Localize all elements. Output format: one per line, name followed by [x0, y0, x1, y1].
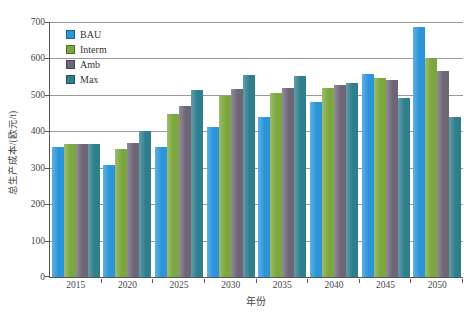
y-axis-tick-100 — [45, 241, 49, 242]
bar-group-2025 — [153, 90, 205, 277]
bar-interm-2045 — [374, 78, 386, 277]
bar-bau-2025 — [155, 147, 167, 277]
bar-bau-2050 — [413, 27, 425, 277]
legend-item-bau: BAU — [66, 27, 107, 42]
x-tick-label-2050: 2050 — [411, 280, 463, 290]
legend-label-max: Max — [80, 74, 98, 85]
bar-bau-2015 — [52, 147, 64, 277]
bar-interm-2040 — [322, 88, 334, 277]
y-axis-tick-700 — [45, 22, 49, 23]
gridline-700 — [50, 22, 463, 23]
y-tick-label-100: 100 — [19, 236, 45, 246]
bar-group-2015 — [50, 144, 102, 277]
y-tick-label-700: 700 — [19, 17, 45, 27]
legend-label-amb: Amb — [80, 59, 100, 70]
x-tick-label-2035: 2035 — [256, 280, 308, 290]
y-axis-tick-300 — [45, 168, 49, 169]
bar-group-2040 — [308, 83, 360, 277]
bar-max-2025 — [191, 90, 203, 277]
y-axis-tick-0 — [45, 276, 49, 277]
bar-amb-2025 — [179, 106, 191, 277]
bar-amb-2050 — [437, 71, 449, 277]
legend: BAUIntermAmbMax — [66, 27, 107, 87]
bar-amb-2035 — [282, 88, 294, 277]
bar-bau-2020 — [103, 165, 115, 277]
bar-max-2030 — [243, 75, 255, 277]
bar-max-2045 — [398, 98, 410, 277]
bar-max-2015 — [88, 144, 100, 277]
bar-amb-2040 — [334, 85, 346, 277]
bar-interm-2050 — [425, 58, 437, 277]
bar-bau-2040 — [310, 102, 322, 277]
y-tick-label-300: 300 — [19, 163, 45, 173]
gridline-600 — [50, 58, 463, 59]
bar-interm-2035 — [270, 93, 282, 277]
plot-area: BAUIntermAmbMax 010020030040050060070020… — [49, 22, 463, 278]
bar-interm-2025 — [167, 114, 179, 277]
x-tick-label-2045: 2045 — [360, 280, 412, 290]
bar-group-2035 — [257, 76, 309, 277]
legend-swatch-max — [66, 75, 75, 84]
bar-interm-2015 — [64, 144, 76, 277]
bar-bau-2035 — [258, 117, 270, 277]
bar-bau-2030 — [207, 127, 219, 277]
legend-item-max: Max — [66, 72, 107, 87]
bar-group-2020 — [102, 131, 154, 277]
y-tick-label-500: 500 — [19, 90, 45, 100]
legend-label-interm: Interm — [80, 44, 107, 55]
bar-interm-2030 — [219, 96, 231, 277]
x-tick-label-2025: 2025 — [153, 280, 205, 290]
bar-interm-2020 — [115, 149, 127, 277]
x-tick-label-2020: 2020 — [101, 280, 153, 290]
bar-max-2020 — [139, 131, 151, 277]
bar-amb-2020 — [127, 143, 139, 277]
bar-amb-2030 — [231, 89, 243, 277]
x-tick-label-2030: 2030 — [205, 280, 257, 290]
bar-group-2045 — [360, 74, 412, 277]
y-axis-tick-200 — [45, 204, 49, 205]
bar-amb-2015 — [76, 144, 88, 277]
x-tick-label-2015: 2015 — [50, 280, 102, 290]
y-axis-tick-500 — [45, 95, 49, 96]
legend-item-interm: Interm — [66, 42, 107, 57]
legend-swatch-bau — [66, 30, 75, 39]
bar-max-2035 — [294, 76, 306, 277]
x-tick-label-2040: 2040 — [308, 280, 360, 290]
bar-max-2050 — [449, 117, 461, 277]
legend-swatch-interm — [66, 45, 75, 54]
chart-figure: 总生产成本/(欧元/t) BAUIntermAmbMax 01002003004… — [0, 0, 474, 323]
y-axis-tick-400 — [45, 131, 49, 132]
y-tick-label-600: 600 — [19, 53, 45, 63]
bar-amb-2045 — [386, 80, 398, 277]
bar-group-2030 — [205, 75, 257, 277]
y-axis-tick-600 — [45, 58, 49, 59]
bar-bau-2045 — [362, 74, 374, 277]
legend-label-bau: BAU — [80, 29, 101, 40]
bar-group-2050 — [411, 27, 463, 277]
legend-swatch-amb — [66, 60, 75, 69]
x-axis-title: 年份 — [49, 293, 462, 308]
y-tick-label-400: 400 — [19, 126, 45, 136]
y-tick-label-0: 0 — [19, 272, 45, 282]
bar-max-2040 — [346, 83, 358, 277]
y-tick-label-200: 200 — [19, 199, 45, 209]
